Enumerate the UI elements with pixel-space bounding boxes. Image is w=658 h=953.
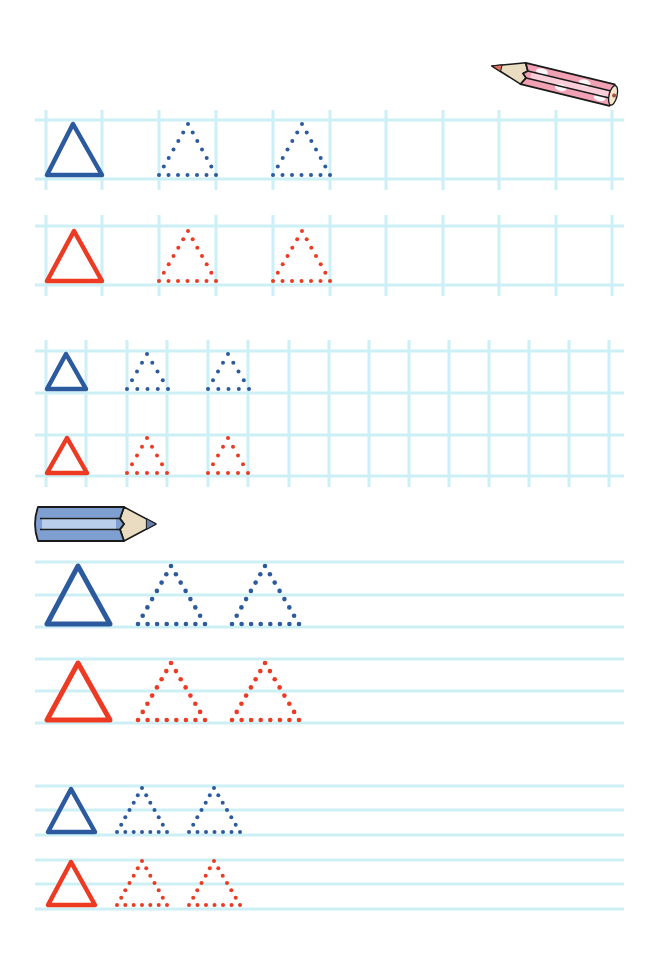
blue-dotted-trace-triangle[interactable] bbox=[206, 352, 251, 391]
trace-dot bbox=[209, 165, 213, 169]
trace-dot bbox=[211, 378, 215, 382]
trace-dot bbox=[268, 718, 273, 723]
trace-dot bbox=[188, 693, 193, 698]
red-model-triangle-icon bbox=[47, 438, 87, 473]
trace-dot bbox=[186, 173, 190, 177]
trace-dot bbox=[290, 173, 294, 177]
trace-dot bbox=[184, 718, 189, 723]
trace-dot bbox=[164, 669, 169, 674]
trace-dot bbox=[135, 387, 139, 391]
trace-dot bbox=[281, 279, 285, 283]
trace-dot bbox=[300, 229, 304, 233]
trace-dot bbox=[191, 237, 195, 241]
trace-dot bbox=[328, 279, 332, 283]
trace-dot bbox=[268, 622, 273, 627]
trace-dot bbox=[230, 830, 234, 834]
trace-dot bbox=[123, 903, 127, 907]
trace-dot bbox=[193, 605, 198, 610]
trace-dot bbox=[287, 605, 292, 610]
trace-dot bbox=[159, 677, 164, 682]
trace-dot bbox=[249, 589, 254, 594]
red-dotted-trace-triangle[interactable] bbox=[206, 436, 250, 475]
trace-dot bbox=[191, 896, 195, 900]
trace-dot bbox=[305, 131, 309, 135]
trace-dot bbox=[236, 454, 240, 458]
trace-dot bbox=[115, 903, 119, 907]
trace-dot bbox=[319, 279, 323, 283]
trace-dot bbox=[188, 597, 193, 602]
trace-dot bbox=[277, 685, 282, 690]
trace-dot bbox=[230, 903, 234, 907]
trace-dot bbox=[183, 589, 188, 594]
ruling bbox=[35, 340, 624, 487]
trace-dot bbox=[195, 139, 199, 143]
ruling bbox=[35, 562, 624, 723]
blue-dotted-trace-triangle[interactable] bbox=[157, 122, 218, 177]
trace-dot bbox=[309, 173, 313, 177]
trace-dot bbox=[132, 874, 136, 878]
trace-dot bbox=[213, 903, 217, 907]
trace-dot bbox=[297, 622, 302, 627]
red-dotted-trace-triangle[interactable] bbox=[125, 436, 169, 475]
trace-dot bbox=[145, 436, 149, 440]
trace-dot bbox=[157, 888, 161, 892]
trace-dot bbox=[292, 710, 297, 715]
trace-dot bbox=[230, 622, 235, 627]
trace-dot bbox=[221, 903, 225, 907]
trace-dot bbox=[234, 823, 238, 827]
trace-dot bbox=[174, 622, 179, 627]
trace-dot bbox=[157, 830, 161, 834]
trace-dot bbox=[272, 677, 277, 682]
trace-dot bbox=[268, 572, 273, 577]
trace-dot bbox=[195, 279, 199, 283]
trace-dot bbox=[167, 173, 171, 177]
trace-dot bbox=[156, 370, 160, 374]
trace-dot bbox=[164, 718, 169, 723]
trace-dot bbox=[198, 613, 203, 618]
trace-dot bbox=[319, 262, 323, 266]
trace-dot bbox=[263, 564, 268, 569]
trace-dot bbox=[204, 801, 208, 805]
trace-dot bbox=[187, 830, 191, 834]
trace-dot bbox=[195, 815, 199, 819]
trace-dot bbox=[231, 361, 235, 365]
trace-dot bbox=[231, 445, 235, 449]
trace-dot bbox=[309, 139, 313, 143]
trace-dot bbox=[176, 139, 180, 143]
trace-dot bbox=[249, 718, 254, 723]
trace-dot bbox=[290, 279, 294, 283]
trace-dot bbox=[140, 445, 144, 449]
trace-dot bbox=[237, 370, 241, 374]
trace-dot bbox=[198, 710, 203, 715]
red-dotted-trace-triangle[interactable] bbox=[157, 229, 218, 283]
blue-dotted-trace-triangle[interactable] bbox=[271, 122, 332, 177]
trace-dot bbox=[221, 361, 225, 365]
trace-dot bbox=[205, 156, 209, 160]
trace-dot bbox=[276, 271, 280, 275]
trace-dot bbox=[140, 786, 144, 790]
section-lined-small bbox=[35, 786, 624, 909]
blue-dotted-trace-triangle[interactable] bbox=[125, 352, 170, 391]
trace-dot bbox=[123, 830, 127, 834]
trace-dot bbox=[271, 173, 275, 177]
trace-dot bbox=[323, 165, 327, 169]
trace-dot bbox=[208, 793, 212, 797]
trace-dot bbox=[216, 370, 220, 374]
trace-dot bbox=[169, 564, 174, 569]
trace-dot bbox=[319, 156, 323, 160]
trace-dot bbox=[203, 718, 208, 723]
trace-dot bbox=[115, 830, 119, 834]
red-dotted-trace-triangle[interactable] bbox=[271, 229, 332, 283]
trace-dot bbox=[206, 387, 210, 391]
trace-dot bbox=[236, 471, 240, 475]
trace-dot bbox=[305, 237, 309, 241]
trace-dot bbox=[221, 445, 225, 449]
trace-dot bbox=[135, 454, 139, 458]
trace-dot bbox=[205, 173, 209, 177]
trace-dot bbox=[205, 262, 209, 266]
trace-dot bbox=[167, 262, 171, 266]
trace-dot bbox=[277, 589, 282, 594]
trace-dot bbox=[221, 830, 225, 834]
trace-dot bbox=[145, 718, 150, 723]
trace-dot bbox=[136, 718, 141, 723]
